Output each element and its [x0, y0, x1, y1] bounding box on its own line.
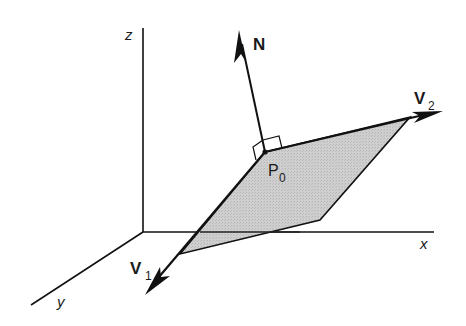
v1-label: V	[130, 259, 142, 278]
y-axis	[31, 232, 143, 305]
y-axis-label: y	[56, 293, 66, 310]
normal-label: N	[253, 35, 265, 54]
point-subscript: 0	[279, 171, 286, 185]
v2-label: V	[414, 89, 426, 108]
point-label: P	[268, 162, 279, 179]
axes	[31, 28, 434, 305]
point-p0-dot	[262, 149, 267, 154]
plane-normal-diagram: z x y N V 2 V 1 P 0	[0, 0, 466, 326]
v1-subscript: 1	[145, 269, 152, 283]
plane	[180, 117, 410, 254]
x-axis-label: x	[419, 235, 428, 252]
z-axis-label: z	[124, 26, 133, 43]
normal-arrowhead-icon	[234, 30, 246, 63]
v2-subscript: 2	[428, 99, 435, 113]
